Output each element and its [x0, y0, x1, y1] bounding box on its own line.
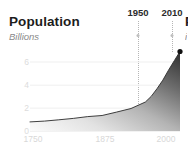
annotation-label-2010: 2010 — [161, 7, 182, 18]
x-tick-label-1750: 1750 — [24, 134, 43, 144]
annotation-label-1950: 1950 — [127, 7, 148, 18]
annotation-cap-2010 — [171, 34, 174, 37]
page-title: Population — [9, 14, 80, 29]
population-area-fill — [30, 52, 180, 132]
y-tick-label-4: 4 — [13, 80, 29, 90]
annotation-cap-1950 — [137, 34, 140, 37]
endpoint-marker-2010 — [177, 49, 182, 54]
plot-area — [30, 52, 180, 131]
next-panel-title: P — [185, 14, 188, 29]
x-tick-label-1875: 1875 — [96, 134, 115, 144]
y-tick-label-2: 2 — [13, 103, 29, 113]
next-panel-subtitle: i — [185, 31, 187, 42]
chart-subtitle: Billions — [9, 31, 39, 42]
population-chart-panel: Population Billions 1950 2010 6 4 2 0 17… — [0, 0, 188, 156]
y-tick-label-6: 6 — [13, 57, 29, 67]
x-tick-label-2000: 2000 — [157, 134, 176, 144]
population-area-chart — [30, 52, 180, 131]
